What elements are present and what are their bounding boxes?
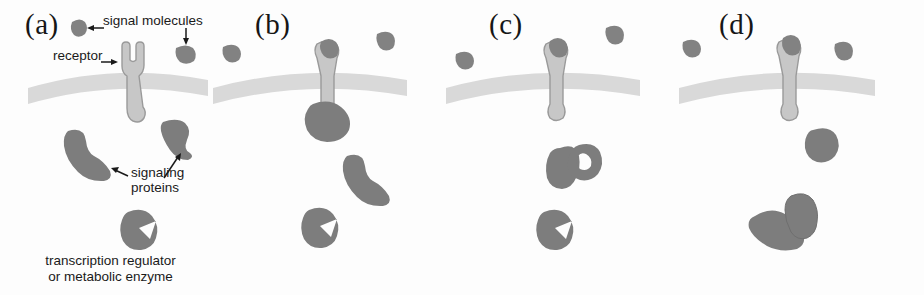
panel-b: (b): [231, 0, 462, 295]
signaling-cascade-figure: (a): [0, 0, 924, 295]
panel-a: (a): [0, 0, 231, 295]
effector-protein: [120, 210, 157, 250]
label-signaling-proteins-line1: signaling: [131, 165, 184, 180]
signal-molecule-right: [834, 42, 853, 61]
panel-d: (d): [693, 0, 924, 295]
panel-c-graphics: [462, 0, 693, 295]
arrow-signaling-proteins-left: [111, 167, 128, 176]
panel-a-graphics: [0, 0, 231, 295]
label-signal-molecules: signal molecules: [103, 13, 203, 28]
label-signaling-proteins-line2: proteins: [131, 180, 179, 195]
membrane-band: [28, 73, 208, 104]
signaling-protein-docked: [305, 102, 350, 142]
signal-molecule-right: [605, 26, 624, 45]
effector-protein: [301, 208, 338, 248]
panel-b-graphics: [231, 0, 462, 295]
membrane-band: [213, 73, 407, 104]
signaling-protein-left: [64, 130, 111, 181]
panel-c: (c): [462, 0, 693, 295]
arrow-signal-molecules-right: [183, 28, 189, 45]
signaling-protein-right: [161, 120, 192, 160]
panel-d-graphics: [693, 0, 924, 295]
signal-molecule-left: [71, 20, 87, 37]
label-receptor: receptor: [53, 48, 103, 63]
signal-molecule-right: [176, 46, 196, 64]
label-effector-line2: or metabolic enzyme: [8, 269, 213, 284]
signaling-protein-b: [568, 144, 602, 180]
signaling-protein-free: [343, 155, 390, 206]
membrane-band: [446, 73, 640, 104]
arrow-signal-molecules-left: [87, 25, 104, 31]
signal-molecule-right: [376, 32, 395, 51]
membrane-band: [679, 73, 875, 104]
effector-protein: [536, 210, 573, 250]
label-effector-line1: transcription regulator: [8, 253, 213, 268]
arrow-receptor: [101, 59, 118, 65]
signaling-protein-free: [805, 128, 839, 162]
